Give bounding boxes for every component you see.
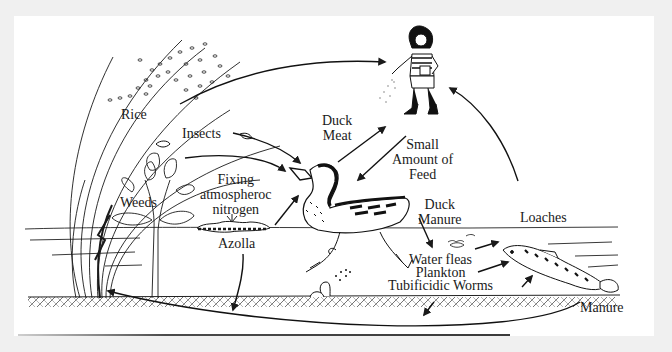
label-duck-meat: Duck Meat	[322, 113, 352, 143]
water-flea-cluster	[448, 235, 475, 248]
label-small-feed: Small Amount of Feed	[392, 137, 453, 182]
flow-arrows	[108, 61, 580, 326]
label-duck-manure: Duck Manure	[418, 197, 462, 227]
label-manure: Manure	[580, 301, 624, 315]
worm	[310, 282, 330, 297]
loach-fish	[503, 246, 618, 293]
label-fixing-nitrogen: Fixing atmospheroc nitrogen	[200, 172, 272, 217]
label-rice: Rice	[121, 108, 147, 122]
label-weeds: Weeds	[120, 196, 157, 210]
label-loaches: Loaches	[520, 211, 567, 225]
label-insects: Insects	[182, 127, 221, 141]
label-water-fleas-plankton-worms: Water fleas Plankton Tubificidic Worms	[388, 253, 493, 292]
rice-plant	[70, 40, 280, 298]
label-azolla: Azolla	[218, 237, 255, 251]
farmer-child	[379, 26, 438, 114]
plankton-dots	[335, 269, 351, 281]
weed-plant	[112, 153, 194, 298]
diagram-frame: Rice Insects Weeds Fixing atmospheroc ni…	[0, 0, 672, 352]
diagram-art	[0, 0, 672, 352]
